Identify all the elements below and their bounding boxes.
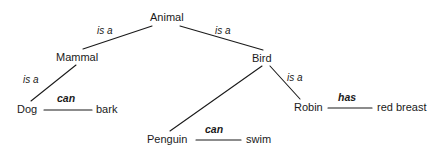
node-mammal[interactable]: Mammal	[56, 51, 98, 64]
node-penguin[interactable]: Penguin	[147, 133, 187, 146]
node-bark[interactable]: bark	[96, 103, 117, 116]
node-swim[interactable]: swim	[246, 133, 271, 146]
node-bird[interactable]: Bird	[252, 52, 272, 65]
edge-label-bird-robin: is a	[287, 72, 303, 84]
edge-label-mammal-dog: is a	[23, 74, 39, 86]
node-animal[interactable]: Animal	[150, 11, 184, 24]
semantic-network-diagram: Animal Mammal Bird Dog bark Robin red br…	[0, 0, 445, 160]
edge-label-animal-mammal: is a	[97, 25, 113, 37]
node-red-breast[interactable]: red breast	[377, 101, 427, 114]
edge-line-bird-penguin	[170, 66, 262, 131]
node-dog[interactable]: Dog	[17, 103, 37, 116]
edge-lines-layer	[0, 0, 445, 160]
node-robin[interactable]: Robin	[294, 101, 323, 114]
edge-label-penguin-swim: can	[205, 123, 223, 135]
edge-label-animal-bird: is a	[215, 25, 231, 37]
edge-line-animal-mammal	[83, 26, 152, 49]
edge-label-dog-bark: can	[57, 92, 75, 104]
edge-label-robin-redbreast: has	[338, 91, 356, 103]
